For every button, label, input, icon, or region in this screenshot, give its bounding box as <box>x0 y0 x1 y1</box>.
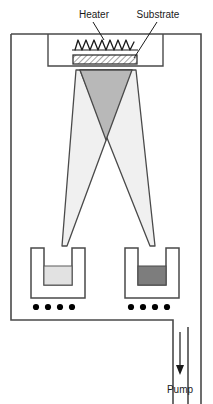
pump-arrow-head-icon <box>176 365 184 375</box>
heater-label: Heater <box>79 9 110 20</box>
crucible-left-melt <box>44 266 72 285</box>
heater-dot <box>33 304 39 310</box>
heater-leader-line <box>93 22 104 40</box>
substrate-leader-line <box>134 22 157 58</box>
heater-dot <box>152 304 158 310</box>
substrate-plate <box>73 55 137 64</box>
substrate-label: Substrate <box>137 9 180 20</box>
heater-dot <box>57 304 63 310</box>
heater-dot <box>164 304 170 310</box>
heater-coil-icon <box>75 40 134 50</box>
evaporation-chamber-diagram: Heater Substrate Pump <box>0 0 213 404</box>
heater-dot <box>69 304 75 310</box>
heater-dot <box>140 304 146 310</box>
heater-dot <box>128 304 134 310</box>
pump-label: Pump <box>167 384 194 395</box>
crucible-right-melt <box>138 266 166 285</box>
heater-dot <box>45 304 51 310</box>
diagram-canvas: Heater Substrate Pump <box>0 0 213 404</box>
